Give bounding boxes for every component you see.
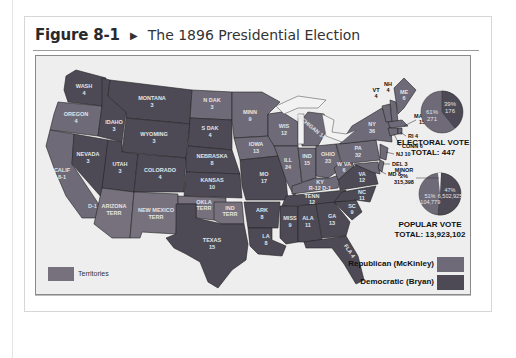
popular-vote-caption: POPULAR VOTE TOTAL: 13,923,102: [390, 220, 470, 240]
legend-territories-label: Territories: [78, 270, 109, 277]
figure-number: Figure 8-1: [35, 26, 120, 44]
figure-container: Figure 8-1 ▶ The 1896 Presidential Elect…: [24, 16, 492, 312]
electoral-vote-caption: ELECTORAL VOTE TOTAL: 447: [396, 138, 470, 158]
header-divider: [33, 50, 479, 51]
svg-text:OKLATERR: OKLATERR: [196, 199, 212, 211]
election-map: WASH4 OREGON4 CALIF8-1 NEVADA3 IDAHO3 MO…: [35, 55, 471, 295]
svg-text:D-1: D-1: [88, 203, 97, 209]
legend-democratic-swatch: [437, 275, 464, 290]
play-triangle-icon: ▶: [130, 30, 138, 41]
legend-republican-label: Republican (McKinley): [348, 259, 434, 268]
svg-text:VA12: VA12: [358, 171, 365, 183]
popular-vote-pie: 51%7,104,779 47%6,502,925 MINOR2%315,398: [394, 167, 462, 215]
legend-territories-swatch: [48, 267, 74, 281]
svg-text:VT4: VT4: [372, 87, 380, 99]
legend-democratic-label: Democratic (Bryan): [360, 277, 434, 286]
page-margin-rule: [12, 0, 13, 358]
state-wis: [268, 112, 298, 146]
svg-text:NH4: NH4: [384, 81, 392, 93]
svg-text:GA13: GA13: [328, 213, 336, 226]
svg-text:NC11: NC11: [358, 189, 366, 201]
state-conn: [388, 128, 398, 136]
state-colorado: [134, 154, 186, 192]
svg-text:61%271: 61%271: [426, 109, 439, 122]
lake-superior: [276, 96, 326, 114]
state-wyoming: [122, 118, 190, 158]
svg-text:NY36: NY36: [368, 121, 376, 134]
legend-republican-swatch: [437, 257, 464, 272]
figure-title: The 1896 Presidential Election: [148, 27, 361, 43]
electoral-vote-pie: 61%271 39%176: [421, 91, 463, 133]
svg-text:39%176: 39%176: [444, 101, 457, 114]
svg-text:PA32: PA32: [354, 145, 361, 158]
figure-header: Figure 8-1 ▶ The 1896 Presidential Elect…: [35, 25, 360, 45]
